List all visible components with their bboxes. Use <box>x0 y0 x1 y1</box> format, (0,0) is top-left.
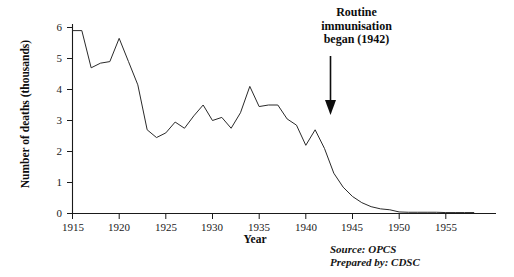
x-tick-label-1945: 1945 <box>332 221 372 233</box>
x-tick-label-1940: 1940 <box>286 221 326 233</box>
y-tick-label-3: 3 <box>44 114 62 126</box>
y-tick-label-1: 1 <box>44 176 62 188</box>
diphtheria-deaths-line-chart: 0 1 2 3 4 5 6 1915 1920 1925 1930 1935 1… <box>0 0 514 277</box>
x-tick-label-1935: 1935 <box>239 221 279 233</box>
annotation-line-1: Routine <box>289 6 424 20</box>
x-tick-label-1930: 1930 <box>192 221 232 233</box>
y-tick-label-2: 2 <box>44 145 62 157</box>
x-tick-label-1920: 1920 <box>99 221 139 233</box>
y-tick-label-0: 0 <box>44 207 62 219</box>
x-tick-label-1915: 1915 <box>53 221 93 233</box>
prepared-by-text: Prepared by: CDSC <box>330 256 508 269</box>
annotation-line-3: began (1942) <box>289 33 424 47</box>
x-tick-label-1955: 1955 <box>426 221 466 233</box>
data-series-line <box>73 31 474 213</box>
y-tick-label-4: 4 <box>44 83 62 95</box>
y-tick-label-5: 5 <box>44 52 62 64</box>
routine-immunisation-annotation: Routine immunisation began (1942) <box>289 6 424 47</box>
x-tick-label-1950: 1950 <box>379 221 419 233</box>
y-axis-title: Number of deaths (thousands) <box>19 29 31 199</box>
chart-axes <box>73 24 497 214</box>
y-tick-marks <box>67 28 73 214</box>
source-text: Source: OPCS <box>330 243 508 256</box>
x-tick-label-1925: 1925 <box>146 221 186 233</box>
y-tick-label-6: 6 <box>44 21 62 33</box>
x-tick-marks <box>73 214 446 220</box>
annotation-line-2: immunisation <box>289 20 424 34</box>
down-arrow-icon <box>325 56 336 115</box>
chart-credits: Source: OPCS Prepared by: CDSC <box>330 243 508 269</box>
x-axis-title: Year <box>215 233 295 245</box>
